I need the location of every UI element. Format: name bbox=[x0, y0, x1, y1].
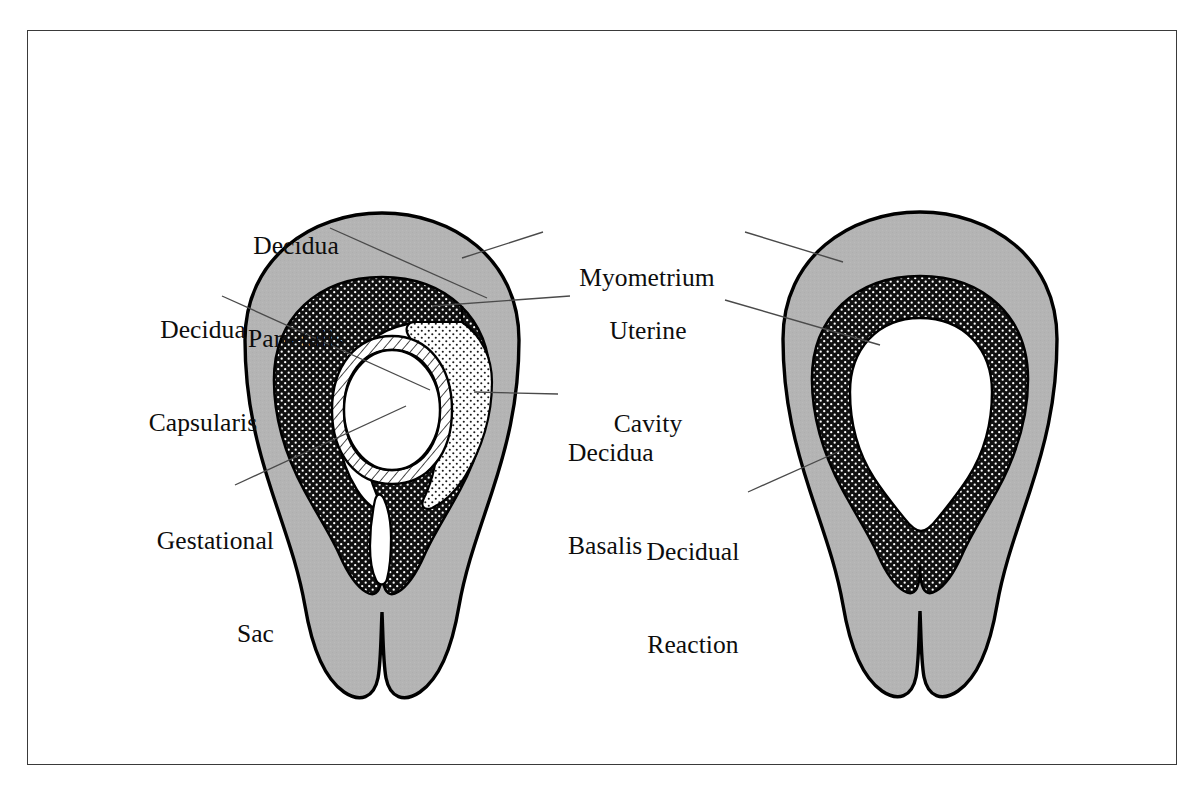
label-decidual-reaction: Decidual Reaction bbox=[600, 474, 786, 722]
figure-stage: Decidua Parietalis Decidua Capsularis Ge… bbox=[0, 0, 1202, 795]
label-line: Decidua bbox=[568, 437, 748, 468]
label-line: Uterine bbox=[576, 315, 720, 346]
label-line: Sac bbox=[92, 618, 274, 649]
label-gestational-sac: Gestational Sac bbox=[92, 463, 274, 711]
label-line: Decidua bbox=[108, 314, 298, 345]
right-uterus-diagram bbox=[783, 212, 1057, 697]
label-line: Reaction bbox=[600, 629, 786, 660]
left-cavity-canal bbox=[370, 495, 391, 585]
label-line: Gestational bbox=[92, 525, 274, 556]
label-line: Capsularis bbox=[108, 407, 298, 438]
label-line: Decidual bbox=[600, 536, 786, 567]
